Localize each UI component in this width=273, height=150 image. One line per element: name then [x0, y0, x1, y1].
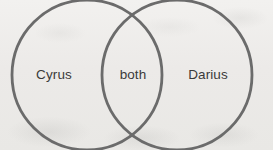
venn-label-intersection: both [120, 67, 147, 82]
venn-label-right: Darius [188, 67, 228, 82]
venn-diagram-page: Cyrus both Darius [0, 0, 273, 150]
venn-label-left: Cyrus [36, 67, 72, 82]
